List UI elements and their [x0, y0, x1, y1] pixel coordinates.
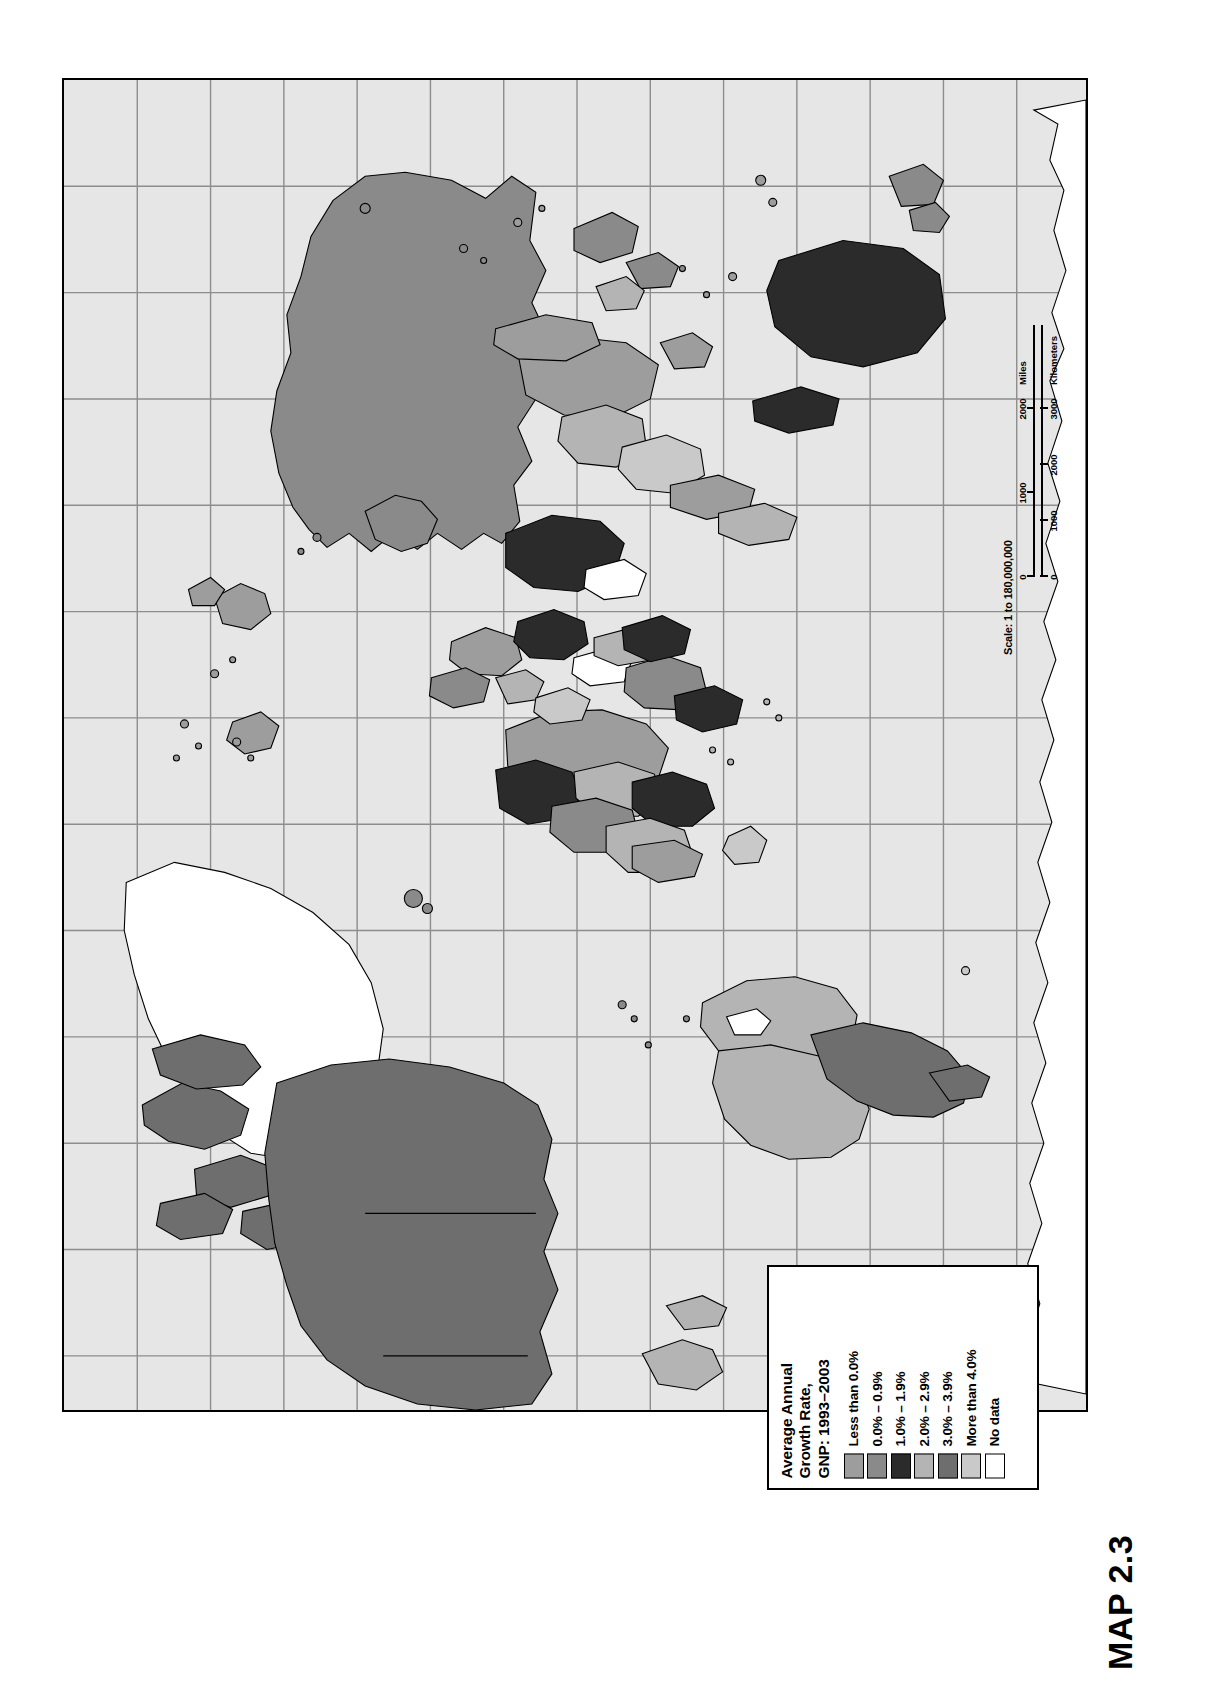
island-dot-22 [710, 747, 716, 753]
scale-label-km-3: 3000 [1048, 398, 1059, 419]
legend-item-less-than-0: Less than 0.0% [842, 1277, 866, 1478]
legend-item-more-than-4: More than 4.0% [959, 1277, 983, 1478]
island-dot-16 [539, 205, 545, 211]
legend-label-2: 1.0% – 1.9% [893, 1371, 908, 1446]
island-dot-27 [298, 548, 304, 554]
legend-swatch-icon-5 [961, 1453, 981, 1478]
island-dot-18 [196, 743, 202, 749]
map-frame: .ld { fill:#2b2b2b; stroke:#000; stroke-… [62, 78, 1088, 1412]
island-dot-19 [173, 755, 179, 761]
map-caption-label: MAP 2.3 [1098, 1440, 1142, 1670]
legend-title: Average Annual Growth Rate, GNP: 1993–20… [778, 1277, 833, 1478]
legend-swatch-icon-1 [867, 1453, 887, 1478]
map-page: .ld { fill:#2b2b2b; stroke:#000; stroke-… [0, 0, 1218, 1695]
legend-item-no-data: No data [983, 1277, 1007, 1478]
island-dot-11 [704, 292, 710, 298]
island-dot-15 [514, 218, 522, 226]
scale-bar: Scale: 1 to 180,000,000 0 1000 2000 0 10… [1018, 255, 1048, 655]
legend-label-1: 0.0% – 0.9% [870, 1371, 885, 1446]
scale-tick-km-1 [1040, 519, 1048, 521]
legend-item-0-0-9: 0.0% – 0.9% [865, 1277, 889, 1478]
island-dot-20 [233, 738, 241, 746]
map-legend: Average Annual Growth Rate, GNP: 1993–20… [767, 1265, 1039, 1490]
scale-tick-mi-0 [1027, 575, 1035, 577]
island-dot-12 [679, 266, 685, 272]
scale-label-mi-1: 1000 [1017, 482, 1028, 503]
legend-swatch-icon-6 [985, 1453, 1005, 1478]
map-caption: MAP 2.3 [1090, 1440, 1150, 1670]
scale-label-km-2: 2000 [1048, 454, 1059, 475]
island-dot-9 [769, 198, 777, 206]
island-dot-1 [211, 670, 219, 678]
island-dot-25 [776, 715, 782, 721]
island-dot-4 [422, 903, 432, 913]
island-dot-10 [729, 273, 737, 281]
island-dot-21 [248, 755, 254, 761]
legend-item-2-0-2-9: 2.0% – 2.9% [912, 1277, 936, 1478]
island-dot-5 [618, 1001, 626, 1009]
scale-tick-km-0 [1040, 575, 1048, 577]
scale-tick-km-2 [1040, 463, 1048, 465]
scale-tick-mi-1 [1027, 491, 1035, 493]
island-dot-6 [631, 1016, 637, 1022]
scale-tick-km-3 [1040, 407, 1048, 409]
legend-item-3-0-3-9: 3.0% – 3.9% [936, 1277, 960, 1478]
island-dot-30 [360, 203, 370, 213]
scale-label-km-0: 0 [1048, 574, 1059, 579]
island-dot-28 [460, 244, 468, 252]
scale-unit-miles: Miles [1017, 361, 1028, 385]
island-dot-29 [481, 258, 487, 264]
island-dot-14 [683, 1016, 689, 1022]
legend-swatch-icon-3 [914, 1453, 934, 1478]
legend-swatch-icon-2 [891, 1453, 911, 1478]
scale-line-miles [1033, 325, 1035, 577]
legend-label-5: More than 4.0% [964, 1349, 979, 1446]
scale-line-kilometers [1041, 325, 1043, 577]
island-dot-2 [230, 657, 236, 663]
island-dot-13 [962, 967, 970, 975]
island-dot-8 [756, 175, 766, 185]
legend-swatch-icon-4 [938, 1453, 958, 1478]
legend-item-1-0-1-9: 1.0% – 1.9% [889, 1277, 913, 1478]
scale-tick-mi-2 [1027, 407, 1035, 409]
scale-label-mi-0: 0 [1017, 574, 1028, 579]
legend-items: Less than 0.0% 0.0% – 0.9% 1.0% – 1.9% 2… [842, 1277, 1007, 1478]
legend-swatch-icon-0 [844, 1453, 864, 1478]
island-dot-3 [404, 889, 422, 907]
legend-label-0: Less than 0.0% [846, 1351, 861, 1446]
legend-label-3: 2.0% – 2.9% [917, 1371, 932, 1446]
island-dot-23 [728, 759, 734, 765]
legend-label-6: No data [987, 1398, 1002, 1446]
scale-unit-kilometers: Kilometers [1048, 336, 1059, 385]
island-dot-17 [180, 720, 188, 728]
island-dot-7 [645, 1042, 651, 1048]
world-map-graphic: .ld { fill:#2b2b2b; stroke:#000; stroke-… [64, 80, 1086, 1410]
island-dot-26 [313, 533, 321, 541]
legend-label-4: 3.0% – 3.9% [940, 1371, 955, 1446]
scale-graphic: 0 1000 2000 0 1000 2000 3000 Miles Kilom… [1017, 325, 1057, 577]
island-dot-24 [764, 699, 770, 705]
scale-caption-text: Scale: 1 to 180,000,000 [1002, 540, 1014, 655]
scale-label-km-1: 1000 [1048, 510, 1059, 531]
scale-label-mi-2: 2000 [1017, 398, 1028, 419]
